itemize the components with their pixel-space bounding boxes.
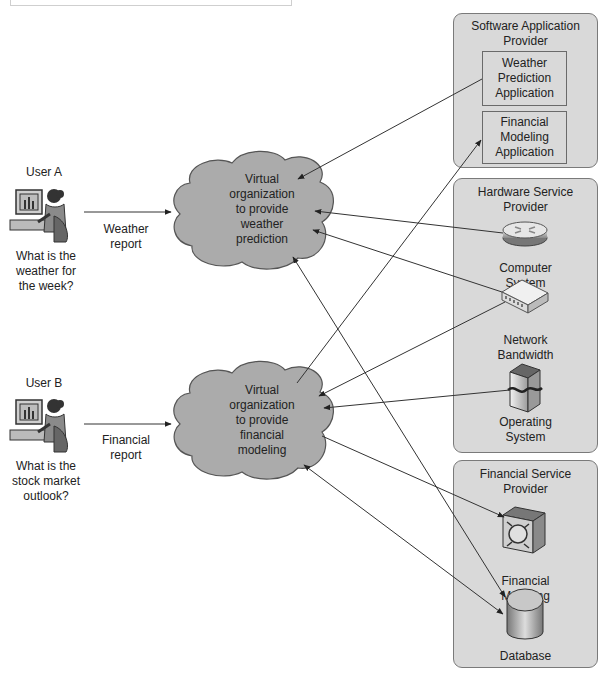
weather-report-label: Weather report (96, 222, 156, 252)
user-b-question: What is the stock market outlook? (0, 459, 92, 504)
question-line: What is the (0, 459, 92, 474)
label-line: System (454, 276, 597, 291)
label-line: Computer (454, 261, 597, 276)
title-line: Software Application (454, 19, 597, 34)
financial-report-label: Financial report (96, 433, 156, 463)
label-line: Database (454, 649, 597, 664)
weather-prediction-application-box: Weather Prediction Application (482, 51, 567, 106)
label-line: System (454, 430, 597, 445)
title-line: Financial Service (454, 467, 597, 482)
weather-cloud-text: Virtual organization to provide weather … (212, 172, 312, 247)
user-b-computer-icon (10, 399, 68, 452)
question-line: What is the (0, 249, 92, 264)
report-line: report (96, 237, 156, 252)
network-bandwidth-label: Network Bandwidth (454, 333, 597, 363)
cloud-line: organization (212, 398, 312, 413)
user-a-computer-icon (10, 189, 68, 242)
question-line: weather for (0, 264, 92, 279)
question-line: the week? (0, 279, 92, 294)
cloud-line: financial (212, 428, 312, 443)
app-label-line: Modeling (495, 130, 554, 145)
app-label-line: Application (495, 86, 554, 101)
cloud-line: to provide (212, 413, 312, 428)
database-label: Database (454, 649, 597, 664)
cloud-line: Virtual (212, 383, 312, 398)
cloud-line: organization (212, 187, 312, 202)
title-line: Provider (454, 200, 597, 215)
label-line: Financial (454, 574, 597, 589)
app-label-line: Financial (495, 115, 554, 130)
computer-system-label: Computer System (454, 261, 597, 291)
financial-cloud-text: Virtual organization to provide financia… (212, 383, 312, 458)
question-line: stock market (0, 474, 92, 489)
financial-provider-title: Financial Service Provider (454, 467, 597, 497)
report-line: Weather (96, 222, 156, 237)
hardware-service-provider-box: Hardware Service Provider Computer Syste… (453, 178, 598, 453)
report-line: Financial (96, 433, 156, 448)
financial-modeling-label: Financial Modeling (454, 574, 597, 604)
cloud-line: to provide (212, 202, 312, 217)
app-label-line: Weather (495, 56, 554, 71)
financial-modeling-application-box: Financial Modeling Application (482, 111, 567, 164)
user-a-question: What is the weather for the week? (0, 249, 92, 294)
cloud-line: Virtual (212, 172, 312, 187)
label-line: Bandwidth (454, 348, 597, 363)
cloud-line: prediction (212, 232, 312, 247)
cloud-line: modeling (212, 443, 312, 458)
question-line: outlook? (0, 489, 92, 504)
app-label-line: Application (495, 145, 554, 160)
operating-system-label: Operating System (454, 415, 597, 445)
financial-service-provider-box: Financial Service Provider Financial Mod… (453, 460, 598, 668)
connection-arrows (84, 79, 510, 614)
hardware-provider-title: Hardware Service Provider (454, 185, 597, 215)
title-line: Provider (454, 482, 597, 497)
title-line: Hardware Service (454, 185, 597, 200)
label-line: Modeling (454, 589, 597, 604)
cropped-caption-box (10, 0, 292, 6)
label-line: Operating (454, 415, 597, 430)
user-b-label: User B (24, 376, 64, 391)
cloud-line: weather (212, 217, 312, 232)
software-provider-title: Software Application Provider (454, 19, 597, 49)
software-application-provider-box: Software Application Provider Weather Pr… (453, 13, 598, 168)
title-line: Provider (454, 34, 597, 49)
report-line: report (96, 448, 156, 463)
app-label-line: Prediction (495, 71, 554, 86)
label-line: Network (454, 333, 597, 348)
user-a-label: User A (24, 165, 64, 180)
